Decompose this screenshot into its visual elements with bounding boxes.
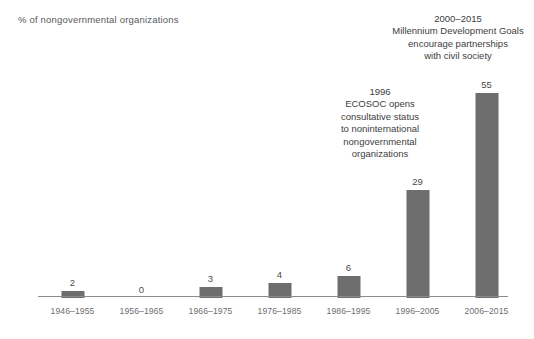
x-axis-category-label: 2006–2015 (452, 306, 521, 316)
bar-chart-figure: % of nongovernmental organizations 20346… (0, 0, 534, 339)
bar-value-label: 3 (208, 273, 213, 284)
bar-value-label: 29 (412, 176, 423, 187)
bar[interactable] (406, 190, 429, 298)
x-axis-category-label: 1946–1955 (38, 306, 107, 316)
x-axis-category-label: 1986–1995 (314, 306, 383, 316)
x-axis-category-label: 1956–1965 (107, 306, 176, 316)
bar-value-label: 6 (346, 262, 351, 273)
x-axis-category-label: 1966–1975 (176, 306, 245, 316)
bar[interactable] (337, 276, 360, 298)
bar-value-label: 55 (481, 79, 492, 90)
bar-group: 3 (176, 8, 245, 298)
bar-group: 4 (245, 8, 314, 298)
bar-group: 2 (38, 8, 107, 298)
bar[interactable] (475, 93, 498, 298)
bar-value-label: 2 (70, 277, 75, 288)
x-axis-category-label: 1976–1985 (245, 306, 314, 316)
x-axis-line (38, 296, 508, 297)
bar-value-label: 0 (139, 284, 144, 295)
annotation-ecosoc: 1996 ECOSOC opens consultative status to… (318, 86, 442, 160)
annotation-mdg: 2000–2015 Millennium Development Goals e… (388, 13, 528, 63)
bar-group: 0 (107, 8, 176, 298)
bar-value-label: 4 (277, 269, 282, 280)
x-axis-category-label: 1996–2005 (383, 306, 452, 316)
